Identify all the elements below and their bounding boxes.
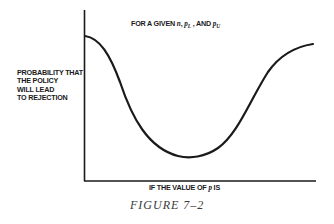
title-prefix: FOR A GIVEN	[131, 19, 175, 28]
y-label-line: TO REJECTION	[17, 94, 83, 102]
title-sep: ,	[181, 19, 183, 28]
y-axis-label: PROBABILITY THAT THE POLICY WILL LEAD TO…	[17, 69, 83, 102]
x-label-var: p	[208, 184, 211, 192]
title-sep: , AND	[193, 19, 211, 28]
x-label-prefix: IF THE VALUE OF	[149, 183, 207, 192]
figure-caption: FIGURE 7–2	[130, 198, 204, 213]
x-axis-label: IF THE VALUE OF p IS	[149, 184, 220, 192]
title-sub-l: L	[188, 23, 191, 29]
rejection-curve	[85, 36, 313, 157]
x-label-suffix: IS	[214, 183, 220, 192]
chart-title: FOR A GIVEN n, pL , AND pU	[131, 20, 220, 30]
title-sub-u: U	[216, 23, 220, 29]
